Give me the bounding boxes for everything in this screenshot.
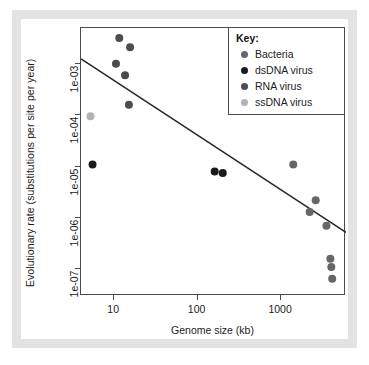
legend-item-label: RNA virus: [255, 78, 302, 94]
data-point: [112, 60, 120, 68]
data-point: [125, 101, 133, 109]
series-rna-virus: [112, 34, 134, 109]
legend-title: Key:: [236, 32, 344, 45]
legend-item-rna-virus[interactable]: RNA virus: [236, 78, 344, 94]
legend-item-bacteria[interactable]: Bacteria: [236, 46, 344, 62]
y-tick-label: 1e-05: [68, 165, 80, 199]
data-point: [327, 263, 335, 271]
x-axis-title: Genome size (kb): [171, 324, 254, 336]
data-point: [121, 71, 129, 79]
data-point: [115, 34, 123, 42]
series-ssdna-virus: [87, 112, 95, 120]
legend-marker-icon: [241, 83, 248, 90]
legend-item-dsdna-virus[interactable]: dsDNA virus: [236, 62, 344, 78]
y-tick-label: 1e-07: [68, 267, 80, 301]
legend-item-ssdna-virus[interactable]: ssDNA virus: [236, 94, 344, 110]
x-tick-mark: [197, 295, 198, 300]
legend-item-label: dsDNA virus: [255, 62, 313, 78]
data-point: [89, 160, 97, 168]
x-tick-mark: [113, 295, 114, 300]
figure-root: Evolutionary rate (substitutions per sit…: [0, 0, 369, 365]
legend-item-label: ssDNA virus: [255, 94, 312, 110]
legend: Key: BacteriadsDNA virusRNA virusssDNA v…: [228, 27, 345, 115]
x-tick-label: 1000: [268, 303, 291, 315]
legend-marker-icon: [241, 51, 248, 58]
data-point: [211, 167, 219, 175]
series-dsdna-virus: [89, 160, 227, 177]
data-point: [289, 160, 297, 168]
y-tick-label: 1e-04: [68, 113, 80, 147]
data-point: [126, 43, 134, 51]
y-tick-label: 1e-06: [68, 216, 80, 250]
legend-marker-icon: [241, 99, 248, 106]
data-point: [306, 208, 314, 216]
data-point: [87, 112, 95, 120]
legend-items: BacteriadsDNA virusRNA virusssDNA virus: [236, 46, 344, 110]
data-point: [312, 196, 320, 204]
x-tick-label: 100: [188, 303, 206, 315]
x-tick-mark: [280, 295, 281, 300]
y-axis-title: Evolutionary rate (substitutions per sit…: [24, 59, 36, 287]
y-tick-label: 1e-03: [68, 62, 80, 96]
data-point: [328, 275, 336, 283]
data-point: [322, 222, 330, 230]
x-tick-label: 10: [107, 303, 119, 315]
legend-marker-icon: [241, 67, 248, 74]
data-point: [219, 169, 227, 177]
data-point: [326, 255, 334, 263]
legend-item-label: Bacteria: [255, 46, 294, 62]
